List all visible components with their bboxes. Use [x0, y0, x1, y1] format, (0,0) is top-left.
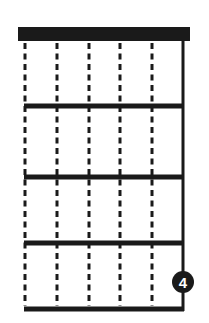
chord-diagram: 4: [0, 0, 209, 323]
frets: [24, 106, 184, 309]
nut: [18, 27, 190, 41]
finger-marker: 4: [172, 271, 194, 293]
finger-number: 4: [179, 274, 188, 291]
